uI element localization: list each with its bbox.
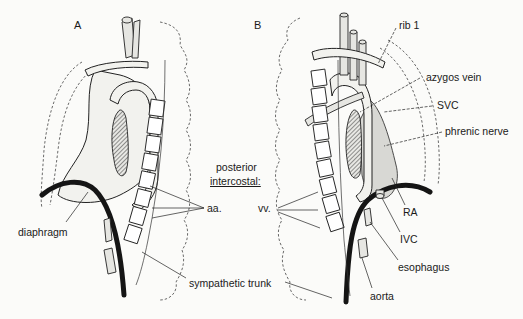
label-vv: vv. [258, 203, 271, 214]
panel-label-a: A [74, 20, 81, 31]
leader-rib1 [378, 28, 396, 64]
leader-svc [384, 106, 432, 112]
label-azygos-vein: azygos vein [426, 72, 481, 83]
vertebral-outline-a [160, 22, 191, 300]
vertebral-column-b [311, 69, 344, 232]
panel-label-b: B [254, 20, 261, 31]
great-vessel-1-b [340, 15, 348, 75]
vessel-lumen-b3 [359, 40, 366, 44]
vertebral-outline-b [276, 18, 307, 300]
leader-aorta [362, 258, 372, 288]
aorta-tube-b [358, 238, 368, 258]
label-phrenic-nerve: phrenic nerve [445, 126, 509, 137]
label-aorta: aorta [370, 291, 394, 302]
panel-a-drawing [41, 17, 190, 300]
vessel-lumen-b1 [340, 13, 348, 17]
vessel-lumen-b2 [350, 30, 357, 34]
great-vessel-3-b [359, 42, 366, 85]
great-vessel-2-a [132, 20, 140, 58]
leader-phrenic [384, 132, 442, 146]
leader-ra [392, 178, 405, 205]
leader-symp-a [142, 252, 186, 278]
descending-tube-a2 [104, 248, 116, 274]
leader-vv-1 [278, 192, 318, 208]
label-rib1: rib 1 [399, 20, 419, 31]
leader-aa-1 [150, 186, 204, 208]
label-ivc: IVC [400, 234, 418, 245]
label-diaphragm: diaphragm [18, 227, 68, 238]
leader-ivc [382, 198, 400, 232]
leader-esophagus [370, 222, 398, 260]
rib1-b [312, 48, 385, 68]
ivc-lumen [376, 194, 384, 199]
label-sympathetic-trunk: sympathetic trunk [189, 278, 271, 289]
label-esophagus: esophagus [398, 262, 449, 273]
label-svc: SVC [437, 100, 459, 111]
vessel-lumen-a [122, 17, 132, 23]
ventricle-b [346, 110, 362, 178]
leader-symp-b [285, 282, 332, 298]
leader-vv-3 [278, 212, 320, 228]
caption-posterior: posterior [216, 162, 257, 173]
panel-b-drawing [276, 13, 440, 302]
label-aa: aa. [207, 203, 222, 214]
label-ra: RA [403, 207, 418, 218]
caption-intercostal: intercostal: [210, 176, 261, 187]
leader-aa-3 [152, 208, 204, 218]
